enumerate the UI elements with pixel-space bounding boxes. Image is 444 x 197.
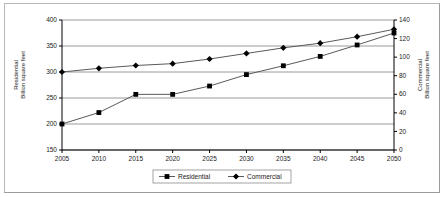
chart-legend[interactable]: ResidentialCommercial [153, 170, 291, 183]
series-line-commercial [62, 29, 394, 72]
data-series [59, 26, 397, 126]
series-point-commercial [170, 61, 176, 67]
x-axis-tick-label: 2015 [129, 155, 144, 162]
y-axis-right-tick-label: 40 [399, 109, 407, 116]
x-axis-tick-label: 2025 [202, 155, 217, 162]
y-axis-left: 150200250300350400 [46, 16, 62, 153]
legend-marker-residential [165, 174, 170, 179]
series-point-commercial [243, 50, 249, 56]
series-point-residential [244, 72, 249, 77]
series-point-commercial [59, 69, 65, 75]
series-point-residential [281, 63, 286, 68]
y-axis-right-tick-label: 0 [399, 146, 403, 153]
series-point-residential [318, 54, 323, 59]
series-point-residential [133, 92, 138, 97]
y-axis-left-tick-label: 300 [46, 68, 57, 75]
y-axis-left-tick-label: 350 [46, 42, 57, 49]
series-point-commercial [206, 56, 212, 62]
series-point-residential [207, 84, 212, 89]
y-axis-left-tick-label: 400 [46, 16, 57, 23]
chart-canvas: 150200250300350400 020406080100120140 20… [0, 0, 444, 197]
x-axis-tick-label: 2045 [350, 155, 365, 162]
legend-label-residential[interactable]: Residential [178, 173, 211, 180]
x-axis-tick-label: 2010 [92, 155, 107, 162]
x-axis-tick-label: 2040 [313, 155, 328, 162]
series-point-commercial [133, 62, 139, 68]
x-axis-tick-label: 2020 [165, 155, 180, 162]
x-axis-tick-label: 2030 [239, 155, 254, 162]
x-axis-tick-label: 2005 [55, 155, 70, 162]
series-point-commercial [354, 34, 360, 40]
y-axis-right-tick-label: 120 [399, 35, 410, 42]
gridlines [62, 20, 394, 150]
x-axis: 2005201020152020202520302035204020452050 [55, 150, 402, 162]
y-axis-left-tick-label: 200 [46, 120, 57, 127]
x-axis-tick-label: 2035 [276, 155, 291, 162]
series-point-residential [170, 92, 175, 97]
y-axis-right-tick-label: 60 [399, 90, 407, 97]
series-line-residential [62, 33, 394, 124]
y-axis-right-tick-label: 140 [399, 16, 410, 23]
series-point-commercial [317, 40, 323, 46]
y-axis-right-tick-label: 20 [399, 128, 407, 135]
y-axis-left-tick-label: 150 [46, 146, 57, 153]
x-axis-tick-label: 2050 [387, 155, 402, 162]
y-axis-left-tick-label: 250 [46, 94, 57, 101]
y-axis-right-tick-label: 80 [399, 72, 407, 79]
series-point-residential [355, 43, 360, 48]
chart-figure: Residential Billion square feet Commerci… [0, 0, 444, 197]
series-point-commercial [96, 65, 102, 71]
series-point-residential [96, 110, 101, 115]
y-axis-right-tick-label: 100 [399, 53, 410, 60]
y-axis-right: 020406080100120140 [394, 16, 410, 153]
legend-label-commercial[interactable]: Commercial [247, 173, 282, 180]
series-point-residential [60, 122, 65, 127]
